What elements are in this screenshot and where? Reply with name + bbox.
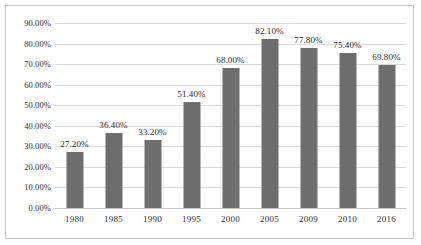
x-axis-category-label: 2009 — [299, 215, 318, 224]
y-axis-tick-label: 10.00% — [6, 183, 51, 192]
x-axis-category-label: 2005 — [260, 215, 279, 224]
y-axis-tick-label: 90.00% — [6, 19, 51, 28]
y-axis-tick-label: 40.00% — [6, 122, 51, 131]
x-axis-category-label: 1985 — [104, 215, 123, 224]
y-axis: 0.00%10.00%20.00%30.00%40.00%50.00%60.00… — [6, 23, 51, 208]
x-axis-category-label: 2010 — [338, 215, 357, 224]
bar-value-label: 77.80% — [294, 36, 322, 45]
x-axis: 198019851990199520002005200920102016 — [55, 210, 406, 234]
x-axis-category-label: 1980 — [65, 215, 84, 224]
x-axis-category-label: 1990 — [143, 215, 162, 224]
y-axis-tick-label: 30.00% — [6, 142, 51, 151]
chart-frame: 0.00%10.00%20.00%30.00%40.00%50.00%60.00… — [5, 5, 414, 239]
y-axis-tick-label: 70.00% — [6, 60, 51, 69]
y-axis-tick-label: 60.00% — [6, 80, 51, 89]
x-axis-category-label: 2000 — [221, 215, 240, 224]
bar-value-label: 68.00% — [216, 56, 244, 65]
bar-value-label: 82.10% — [255, 27, 283, 36]
y-axis-tick-label: 80.00% — [6, 39, 51, 48]
bar-value-label: 69.80% — [372, 53, 400, 62]
x-axis-category-label: 2016 — [377, 215, 396, 224]
axis-baseline — [55, 208, 406, 209]
bar-value-label: 36.40% — [99, 121, 127, 130]
x-axis-category-label: 1995 — [182, 215, 201, 224]
y-axis-tick-label: 20.00% — [6, 163, 51, 172]
bar-value-label: 27.20% — [60, 140, 88, 149]
data-labels-layer: 27.20%36.40%33.20%51.40%68.00%82.10%77.8… — [55, 6, 406, 208]
y-axis-tick-label: 0.00% — [6, 204, 51, 213]
bar-value-label: 51.40% — [177, 90, 205, 99]
bar-value-label: 33.20% — [138, 128, 166, 137]
y-axis-tick-label: 50.00% — [6, 101, 51, 110]
bar-value-label: 75.40% — [333, 41, 361, 50]
